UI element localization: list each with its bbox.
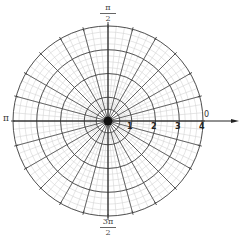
- three-half-pi-denominator: 2: [100, 228, 116, 237]
- polar-grid: [0, 0, 246, 248]
- ring-label-4: 4: [199, 123, 205, 131]
- origin-dot: [104, 117, 113, 126]
- ring-label-2: 2: [151, 123, 157, 131]
- half-pi-denominator: 2: [100, 14, 116, 23]
- half-pi-numerator: π: [100, 4, 116, 14]
- ring-label-3: 3: [175, 123, 181, 131]
- label-three-half-pi: 3π 2: [100, 218, 116, 237]
- ring-label-1: 1: [127, 123, 133, 131]
- three-half-pi-numerator: 3π: [100, 218, 116, 228]
- label-zero: 0: [204, 111, 209, 119]
- label-half-pi: π 2: [100, 4, 116, 23]
- label-pi: π: [3, 114, 9, 123]
